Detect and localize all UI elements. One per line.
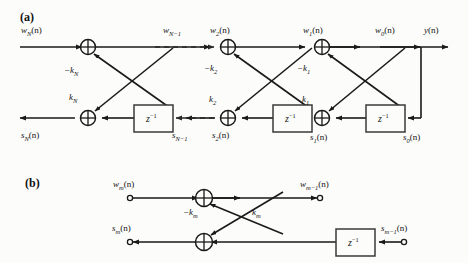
delay-block-m-label: z−1 xyxy=(348,237,359,248)
terminal-w-m-input-dot xyxy=(127,195,132,200)
label-w-m: wm(n) xyxy=(113,180,134,191)
panel-label-a: (a) xyxy=(20,10,34,25)
label-w-0: w0(n) xyxy=(375,26,395,37)
label-s-N: sN(n) xyxy=(21,131,39,142)
label-coefficient-k-N: kN xyxy=(69,93,77,104)
delay-block-0-label: z−1 xyxy=(378,113,389,124)
label-w-m-minus-1: wm−1(n) xyxy=(300,180,329,191)
panel-label-b: (b) xyxy=(25,176,40,191)
terminal-s-m-1-input-dot xyxy=(401,239,406,244)
label-coefficient-k-2: k2 xyxy=(209,95,216,106)
label-coefficient-minus-k-N: −kN xyxy=(64,66,78,77)
label-s-1: s1(n) xyxy=(310,133,327,144)
terminal-w-m-1-output-dot xyxy=(317,195,322,200)
label-coefficient-k-m: km xyxy=(252,208,261,219)
label-w-N-minus-1: wN−1 xyxy=(163,26,181,37)
label-s-0: s0(n) xyxy=(403,133,420,144)
label-coefficient-minus-k-2: −k2 xyxy=(204,64,217,75)
label-s-m-minus-1: sm−1(n) xyxy=(381,224,407,235)
delay-block-N-label: z−1 xyxy=(146,113,157,124)
label-w-2: w2(n) xyxy=(210,26,230,37)
label-w-1: w1(n) xyxy=(303,26,323,37)
label-coefficient-minus-k-1: −k1 xyxy=(297,64,310,75)
figure-canvas: (a) (b) wN(n) wN−1 w2(n) w1(n) w0(n) y(n… xyxy=(0,0,468,263)
label-s-m: sm(n) xyxy=(112,224,131,235)
label-y-output: y(n) xyxy=(424,26,439,35)
label-coefficient-k-1: k1 xyxy=(302,95,309,106)
terminal-s-m-output-dot xyxy=(127,239,132,244)
panel-b-adder-crosses xyxy=(196,190,213,251)
label-w-N: wN(n) xyxy=(21,26,42,37)
label-s-2: s2(n) xyxy=(212,131,229,142)
label-s-N-minus-1: sN−1 xyxy=(172,131,188,142)
delay-block-1-label: z−1 xyxy=(285,113,296,124)
label-coefficient-minus-k-m: −km xyxy=(183,208,198,219)
